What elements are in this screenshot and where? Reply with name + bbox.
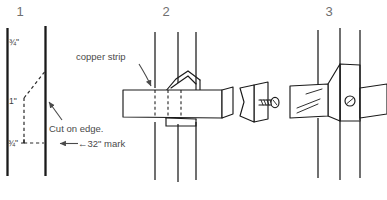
bar-body-panel2 <box>123 90 222 118</box>
panel-3-number: 3 <box>325 4 332 19</box>
bar-end-face-panel2 <box>222 87 233 118</box>
center-block-shoulder-panel3 <box>328 64 340 121</box>
diagram-canvas: 1 ¾" 1" ¾" Cut on edge. ←32" mark 2 copp… <box>0 0 387 200</box>
mark-32-label: ←32" mark <box>78 138 125 149</box>
cut-corner-tick <box>22 140 25 144</box>
panel-3-group: 3 <box>290 4 387 180</box>
cut-on-edge-leader <box>49 102 62 120</box>
panel-2-number: 2 <box>162 4 169 19</box>
dim-label-middle: 1" <box>9 96 17 106</box>
cut-path-diagonal <box>24 72 45 98</box>
center-block-panel3 <box>340 64 360 121</box>
panel-1-number: 1 <box>16 4 23 19</box>
strip-right-wing-panel3 <box>360 84 387 118</box>
block-side-face <box>240 85 254 122</box>
copper-strip-bend-top <box>171 76 196 88</box>
copper-strip-label: copper strip <box>76 51 126 62</box>
dim-label-top: ¾" <box>9 37 19 47</box>
cut-on-edge-label: Cut on edge. <box>49 123 103 134</box>
panel-1-group: 1 ¾" 1" ¾" Cut on edge. ←32" mark <box>8 4 126 176</box>
dim-label-bottom: ¾" <box>8 138 18 148</box>
copper-strip-leader <box>139 64 151 86</box>
block-front-face <box>254 82 268 122</box>
panel-2-group: 2 copper strip <box>76 4 233 182</box>
copper-strip-bend-top-outer <box>165 71 200 92</box>
block-and-screw-group <box>240 82 279 122</box>
